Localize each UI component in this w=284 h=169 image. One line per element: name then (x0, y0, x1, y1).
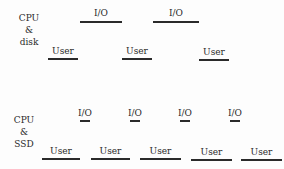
user-label: User (199, 47, 229, 57)
user-segment: User (42, 146, 80, 162)
label-line: SSD (9, 138, 39, 150)
row-label-cpu-ssd: CPU & SSD (9, 114, 39, 150)
io-bar (153, 21, 199, 23)
io-segment: I/O (80, 8, 122, 24)
user-bar (199, 59, 229, 61)
user-label: User (140, 146, 181, 156)
user-bar (191, 159, 232, 161)
user-segment: User (140, 146, 181, 162)
io-bar (80, 120, 90, 122)
io-label: I/O (80, 8, 122, 18)
label-line: & (14, 24, 44, 36)
io-segment: I/O (77, 108, 93, 124)
label-line: disk (14, 36, 44, 48)
user-segment: User (91, 146, 130, 162)
io-segment: I/O (127, 108, 143, 124)
user-label: User (191, 147, 232, 157)
label-line: CPU (14, 12, 44, 24)
user-bar (140, 158, 181, 160)
io-segment: I/O (153, 8, 199, 24)
user-bar (48, 58, 78, 60)
row-label-cpu-disk: CPU & disk (14, 12, 44, 48)
io-label: I/O (77, 108, 93, 118)
user-segment: User (199, 47, 229, 63)
io-label: I/O (127, 108, 143, 118)
label-line: & (9, 126, 39, 138)
user-segment: User (191, 147, 232, 163)
io-bar (180, 120, 190, 122)
user-label: User (42, 146, 80, 156)
user-label: User (122, 46, 152, 56)
user-bar (42, 158, 80, 160)
label-line: CPU (9, 114, 39, 126)
user-label: User (48, 46, 78, 56)
io-bar (230, 120, 240, 122)
io-label: I/O (227, 108, 243, 118)
io-label: I/O (177, 108, 193, 118)
io-bar (80, 21, 122, 23)
io-bar (130, 120, 140, 122)
user-bar (91, 158, 130, 160)
user-segment: User (122, 46, 152, 62)
user-label: User (91, 146, 130, 156)
user-segment: User (48, 46, 78, 62)
user-label: User (241, 147, 282, 157)
io-segment: I/O (227, 108, 243, 124)
user-segment: User (241, 147, 282, 163)
user-bar (241, 159, 282, 161)
io-segment: I/O (177, 108, 193, 124)
io-label: I/O (153, 8, 199, 18)
user-bar (122, 58, 152, 60)
